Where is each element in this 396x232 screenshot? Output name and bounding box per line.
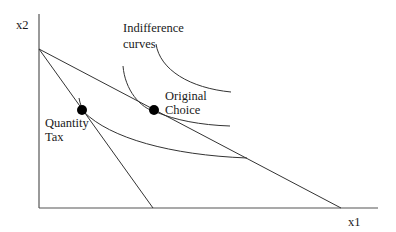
original-choice-label-line1: Original [165,89,207,103]
y-axis-label: x2 [16,18,29,32]
indifference-curves-label-line1: Indifference [123,21,184,35]
original-choice-label-line2: Choice [165,103,200,117]
indifference-curves-label-line2: curves [123,37,156,51]
indifference-curve-quantity-tax [79,98,247,158]
quantity-tax-point [77,105,87,115]
quantity-tax-label-line2: Tax [45,130,64,144]
quantity-tax-label-line1: Quantity [45,116,89,130]
x-axis-label: x1 [348,215,361,229]
original-choice-point [149,105,159,115]
indifference-curve-upper [156,44,231,92]
